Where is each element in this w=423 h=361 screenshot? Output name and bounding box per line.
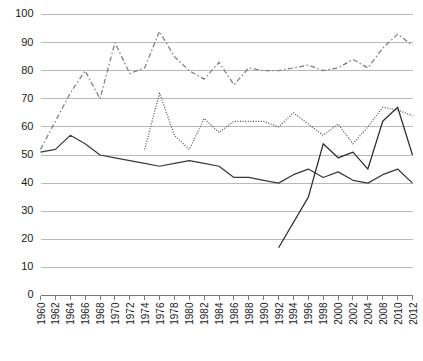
x-axis-tick-label: 1962 — [50, 302, 61, 325]
y-axis-tick-label: 30 — [21, 204, 33, 216]
x-axis-tick-label: 1982 — [199, 302, 210, 325]
y-axis-tick-label: 10 — [21, 260, 33, 272]
x-axis-tick-label: 1992 — [274, 302, 285, 325]
x-axis-tick-label: 1970 — [110, 302, 121, 325]
y-axis-tick-label: 100 — [15, 7, 33, 19]
series-line-asian-american — [279, 107, 413, 248]
x-axis-tick-label: 1976 — [155, 302, 166, 325]
x-axis-tick-label: 1974 — [140, 302, 151, 325]
x-axis-tick-labels: 1960196219641966196819701972197419761978… — [36, 302, 419, 325]
x-axis-tick-label: 1960 — [36, 302, 47, 325]
x-axis-tick-label: 2010 — [393, 302, 404, 325]
y-axis-tick-label: 40 — [21, 176, 33, 188]
x-axis-tick-label: 1980 — [184, 302, 195, 325]
x-axis-tick-label: 1990 — [259, 302, 270, 325]
y-axis-tick-label: 90 — [21, 36, 33, 48]
x-axis-tick-label: 2008 — [378, 302, 389, 325]
x-axis-tick-label: 1978 — [169, 302, 180, 325]
x-axis-tick-label: 1986 — [229, 302, 240, 325]
x-axis-tick-label: 2002 — [348, 302, 359, 325]
y-axis-tick-label: 20 — [21, 232, 33, 244]
series-line-latino — [145, 93, 413, 149]
data-series-group — [41, 31, 413, 247]
x-axis-tick-label: 2000 — [333, 302, 344, 325]
series-line-white — [41, 135, 413, 183]
y-axis-tick-label: 80 — [21, 64, 33, 76]
y-axis-tick-labels: 0102030405060708090100 — [15, 7, 33, 300]
chart-figure: 0102030405060708090100 19601962196419661… — [0, 0, 423, 361]
y-axis-tick-label: 50 — [21, 148, 33, 160]
x-axis-tick-label: 1998 — [318, 302, 329, 325]
x-axis-tick-label: 1968 — [95, 302, 106, 325]
x-axis-tick-marks — [41, 296, 413, 300]
x-axis-tick-label: 2012 — [408, 302, 419, 325]
x-axis-tick-label: 1972 — [125, 302, 136, 325]
series-line-black — [41, 31, 413, 149]
x-axis-tick-label: 1988 — [244, 302, 255, 325]
x-axis-tick-label: 1984 — [214, 302, 225, 325]
x-axis-tick-label: 2004 — [363, 302, 374, 325]
x-axis-tick-label: 1966 — [80, 302, 91, 325]
x-axis-tick-label: 1964 — [65, 302, 76, 325]
y-axis-tick-label: 60 — [21, 120, 33, 132]
x-axis-tick-label: 1996 — [303, 302, 314, 325]
line-chart: 0102030405060708090100 19601962196419661… — [0, 0, 423, 361]
y-axis-tick-label: 70 — [21, 92, 33, 104]
gridlines-group — [41, 15, 413, 296]
x-axis-tick-label: 1994 — [288, 302, 299, 325]
y-axis-tick-label: 0 — [27, 288, 33, 300]
